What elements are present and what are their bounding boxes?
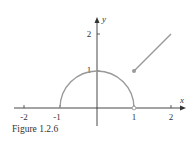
y-tick-label: 2 bbox=[87, 29, 92, 39]
function-graph: -2 -1 1 2 1 2 x y bbox=[0, 0, 195, 142]
line-segment bbox=[134, 34, 171, 71]
figure-caption: Figure 1.2.6 bbox=[12, 124, 58, 134]
x-axis-arrow-icon bbox=[180, 106, 186, 111]
x-tick-label: 2 bbox=[169, 112, 174, 122]
x-tick-label: -2 bbox=[20, 112, 28, 122]
y-axis-arrow-icon bbox=[95, 17, 100, 23]
x-tick-label: 1 bbox=[132, 112, 137, 122]
closed-endpoint bbox=[132, 69, 136, 73]
x-axis-label: x bbox=[179, 95, 184, 105]
open-endpoint bbox=[132, 106, 136, 110]
x-tick-label: -1 bbox=[53, 112, 61, 122]
y-axis-label: y bbox=[101, 14, 106, 24]
y-tick-label: 1 bbox=[87, 65, 92, 75]
